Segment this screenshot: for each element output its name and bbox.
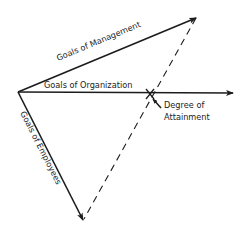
- management-label: Goals of Management: [55, 19, 143, 63]
- attainment-label-line1: Degree of: [164, 100, 205, 110]
- organization-label: Goals of Organization: [44, 80, 132, 90]
- attainment-x-mark: [146, 89, 154, 99]
- employees-label: Goals of Employees: [18, 109, 64, 186]
- attainment-pointer-arrow: [153, 99, 161, 108]
- attainment-label-line2: Attainment: [164, 112, 211, 122]
- goal-vectors-diagram: Goals of Management Goals of Organizatio…: [0, 0, 246, 229]
- organization-goal-vector: [18, 92, 233, 93]
